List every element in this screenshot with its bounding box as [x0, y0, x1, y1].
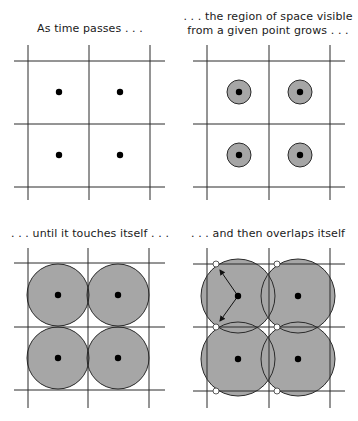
image-point-marker: [213, 324, 219, 330]
lattice-diagram: [0, 0, 358, 421]
point-dot: [297, 89, 303, 95]
point-dot: [56, 152, 62, 158]
image-point-marker: [213, 388, 219, 394]
point-dot: [295, 356, 301, 362]
point-dot: [117, 152, 123, 158]
point-dot: [236, 89, 242, 95]
image-point-marker: [274, 261, 280, 267]
point-dot: [115, 292, 121, 298]
panel-touches-itself: [14, 248, 165, 408]
panel-region-grows: [193, 45, 345, 200]
point-dot: [236, 152, 242, 158]
image-point-marker: [274, 324, 280, 330]
point-dot: [297, 152, 303, 158]
point-dot: [295, 293, 301, 299]
point-dot: [235, 356, 241, 362]
point-dot: [117, 89, 123, 95]
panel-overlaps-itself: [193, 248, 345, 408]
panel-as-time-passes: [14, 45, 165, 200]
point-dot: [115, 355, 121, 361]
point-dot: [235, 293, 241, 299]
point-dot: [55, 292, 61, 298]
point-dot: [56, 89, 62, 95]
image-point-marker: [213, 261, 219, 267]
image-point-marker: [274, 388, 280, 394]
point-dot: [55, 355, 61, 361]
